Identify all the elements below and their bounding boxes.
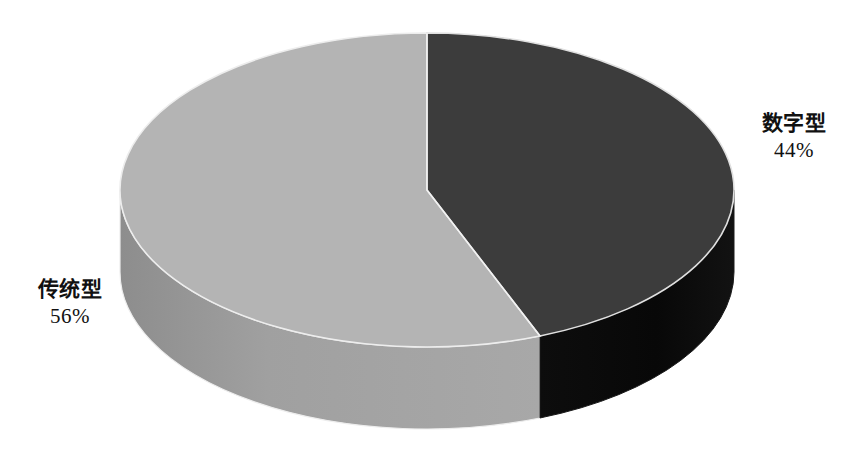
pie-label-digital-percent: 44% [742,137,846,164]
pie-label-traditional-category: 传统型 [18,276,122,303]
pie-label-traditional: 传统型 56% [18,276,122,330]
pie-label-digital: 数字型 44% [742,110,846,164]
pie-label-digital-category: 数字型 [742,110,846,137]
pie-chart-3d [0,0,851,470]
chart-canvas: 数字型 44% 传统型 56% [0,0,851,470]
pie-label-traditional-percent: 56% [18,303,122,330]
